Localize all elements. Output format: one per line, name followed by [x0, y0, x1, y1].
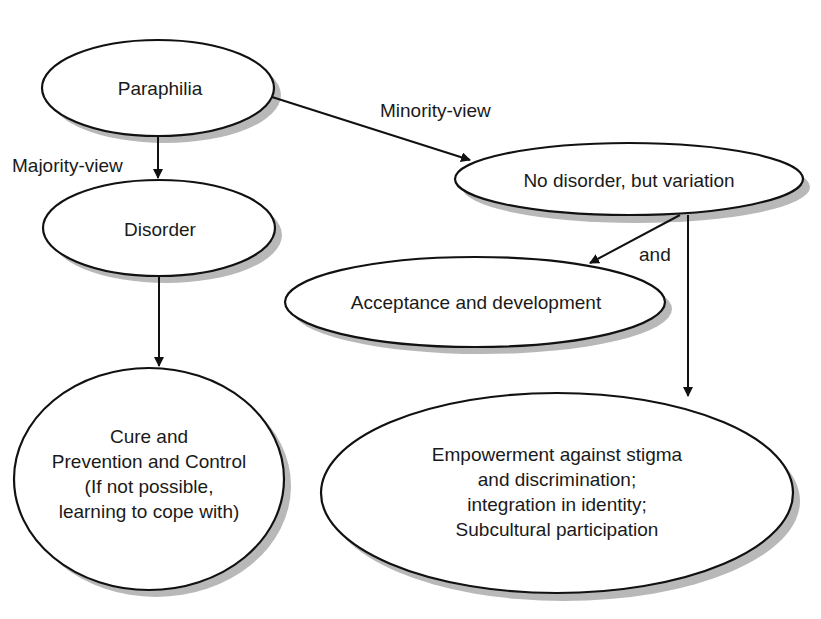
empowerment-line-4: Subcultural participation: [432, 517, 682, 542]
edge-label-minority-view: Minority-view: [380, 101, 491, 120]
edge-label-and: and: [639, 245, 671, 264]
node-acceptance-text: Acceptance and development: [351, 290, 601, 315]
cure-line-3: (If not possible,: [52, 474, 246, 499]
cure-line-1: Cure and: [52, 424, 246, 449]
edge-label-majority-view: Majority-view: [12, 156, 123, 175]
node-no-disorder-text: No disorder, but variation: [523, 168, 734, 193]
node-paraphilia-text: Paraphilia: [118, 76, 203, 101]
empowerment-line-3: integration in identity;: [432, 492, 682, 517]
empowerment-line-2: and discrimination;: [432, 467, 682, 492]
node-cure-text: Cure and Prevention and Control (If not …: [52, 424, 246, 524]
cure-line-2: Prevention and Control: [52, 449, 246, 474]
cure-line-4: learning to cope with): [52, 499, 246, 524]
node-disorder-text: Disorder: [124, 217, 196, 242]
empowerment-line-1: Empowerment against stigma: [432, 442, 682, 467]
node-empowerment-text: Empowerment against stigma and discrimin…: [432, 442, 682, 542]
